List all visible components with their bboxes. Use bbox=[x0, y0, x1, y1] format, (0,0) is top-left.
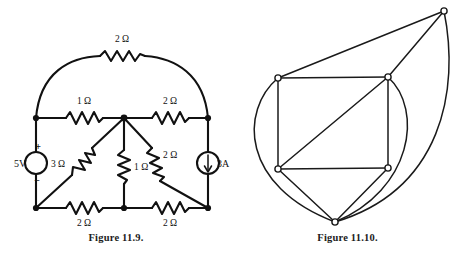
figure-119-caption: Figure 11.9. bbox=[0, 232, 232, 243]
graph-node-top-right bbox=[385, 74, 391, 80]
figure-page: 2 Ω 1 Ω 2 Ω 3 Ω 1 Ω 2 Ω 2 Ω 2 Ω 5V + − 3… bbox=[0, 0, 463, 258]
graph-node-apex bbox=[441, 8, 447, 14]
label-current-source: 3A bbox=[217, 158, 230, 169]
resistor-top-arc-zigzag bbox=[100, 51, 145, 61]
figure-graph-panel: Figure 11.10. bbox=[232, 0, 463, 258]
voltage-source-symbol bbox=[25, 152, 47, 174]
branch-bottomnode-to-bottomleft bbox=[278, 169, 335, 222]
branch-left-arc bbox=[254, 78, 335, 222]
branch-apex-to-topleft bbox=[278, 11, 444, 78]
node-bottom-right bbox=[205, 205, 211, 211]
resistor-bottom-right-zigzag bbox=[152, 202, 189, 214]
label-bottom-left-resistor: 2 Ω bbox=[77, 218, 91, 228]
label-center-resistor: 1 Ω bbox=[134, 162, 148, 172]
branch-right-arc bbox=[335, 77, 407, 222]
wire-diag-left-lower bbox=[36, 175, 72, 208]
branch-bottomnode-to-bottomright bbox=[335, 168, 388, 222]
figure-circuit-panel: 2 Ω 1 Ω 2 Ω 3 Ω 1 Ω 2 Ω 2 Ω 2 Ω 5V + − 3… bbox=[0, 0, 232, 258]
label-diag-right-resistor: 2 Ω bbox=[163, 150, 177, 160]
graph-nodes bbox=[275, 8, 447, 225]
label-voltage-plus: + bbox=[35, 141, 41, 152]
node-bottom-left bbox=[33, 205, 39, 211]
wire-diag-left-upper bbox=[92, 118, 124, 148]
resistor-diag-right-zigzag bbox=[147, 148, 164, 181]
branch-top bbox=[278, 77, 388, 78]
node-bottom-center bbox=[121, 205, 127, 211]
branch-apex-to-topright bbox=[388, 11, 444, 77]
wire-diag-right-upper bbox=[124, 118, 152, 148]
graph-node-bottom-right bbox=[385, 165, 391, 171]
label-voltage-minus: − bbox=[34, 175, 40, 186]
graph-node-bottom-left bbox=[275, 166, 281, 172]
label-diag-left-resistor: 3 Ω bbox=[51, 159, 65, 169]
circuit-schematic: 2 Ω 1 Ω 2 Ω 3 Ω 1 Ω 2 Ω 2 Ω 2 Ω 5V + − 3… bbox=[0, 0, 232, 232]
label-top-left-resistor: 1 Ω bbox=[77, 96, 91, 106]
resistor-top-left-zigzag bbox=[66, 112, 103, 124]
resistor-top-right-zigzag bbox=[152, 112, 189, 124]
label-top-right-resistor: 2 Ω bbox=[163, 96, 177, 106]
node-top-center bbox=[121, 115, 128, 122]
label-top-arc-resistor: 2 Ω bbox=[115, 34, 129, 44]
label-bottom-right-resistor: 2 Ω bbox=[163, 218, 177, 228]
label-voltage-source: 5V bbox=[14, 158, 27, 169]
branch-outer-arc bbox=[335, 11, 449, 222]
node-top-left bbox=[33, 115, 39, 121]
wire-top-arc-right bbox=[145, 56, 208, 118]
wire-top-arc-left bbox=[36, 56, 100, 118]
resistor-diag-left-zigzag bbox=[72, 148, 95, 175]
branch-bottom bbox=[278, 168, 388, 169]
graph-node-bottom bbox=[332, 219, 338, 225]
graph-node-top-left bbox=[275, 75, 281, 81]
resistor-center-zigzag bbox=[118, 150, 130, 184]
figure-1110-caption: Figure 11.10. bbox=[232, 232, 463, 243]
linear-graph-diagram bbox=[232, 0, 463, 232]
node-top-right bbox=[205, 115, 211, 121]
branch-diagonal bbox=[278, 77, 388, 169]
resistor-bottom-left-zigzag bbox=[66, 202, 103, 214]
